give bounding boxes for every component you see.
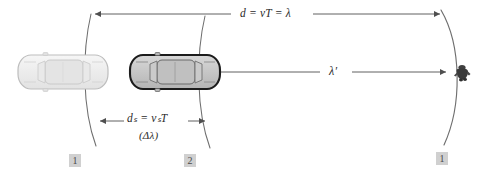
wavefront-arc-3: [441, 10, 457, 145]
label-wavelength-equation: d = vT = λ: [236, 8, 295, 20]
car-light: [18, 53, 108, 92]
label-delta-wavelength: (Δλ): [139, 130, 158, 141]
label-wavelength-prime: λ′: [325, 65, 341, 77]
position-marker-2: 2: [184, 154, 196, 167]
car-dark: [130, 53, 220, 92]
position-marker-1-right: 1: [436, 152, 448, 165]
doppler-effect-figure: d = vT = λ λ′ dₛ = vₛT (Δλ) 1 2 1: [0, 0, 495, 181]
position-marker-1-left: 1: [69, 154, 81, 167]
label-source-shift-equation: dₛ = vₛT: [124, 113, 170, 125]
